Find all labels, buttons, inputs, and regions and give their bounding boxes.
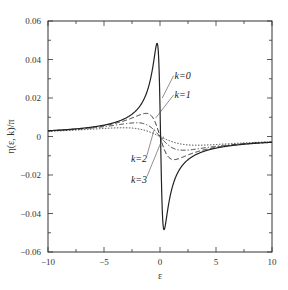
curve-label-k-0: k=0 xyxy=(175,70,191,81)
y-tick-label: 0.02 xyxy=(25,93,41,103)
y-tick-label: 0.06 xyxy=(25,16,41,26)
tick-labels: −10−50510−0.06−0.04−0.0200.020.040.06 xyxy=(20,16,277,267)
y-tick-label: 0 xyxy=(37,132,42,142)
leader-line xyxy=(162,76,173,98)
x-tick-label: −5 xyxy=(99,257,109,267)
y-tick-label: −0.04 xyxy=(20,209,41,219)
curve-label-k-1: k=1 xyxy=(175,89,191,100)
x-axis-title: ε xyxy=(158,270,162,281)
y-tick-label: −0.06 xyxy=(20,247,41,257)
curves xyxy=(48,43,272,229)
y-tick-label: −0.02 xyxy=(20,170,41,180)
x-tick-label: 5 xyxy=(214,257,219,267)
x-tick-label: 10 xyxy=(268,257,278,267)
x-tick-label: 0 xyxy=(158,257,163,267)
x-tick-label: −10 xyxy=(41,257,56,267)
y-axis-title: η(ε, k)/π xyxy=(5,120,17,154)
y-tick-label: 0.04 xyxy=(25,55,41,65)
curve-label-k-3: k=3 xyxy=(131,174,147,185)
curve-label-k-2: k=2 xyxy=(131,153,147,164)
chart: −10−50510−0.06−0.04−0.0200.020.040.06 k=… xyxy=(0,0,288,290)
leader-line xyxy=(156,95,174,118)
leader-line xyxy=(147,129,155,156)
